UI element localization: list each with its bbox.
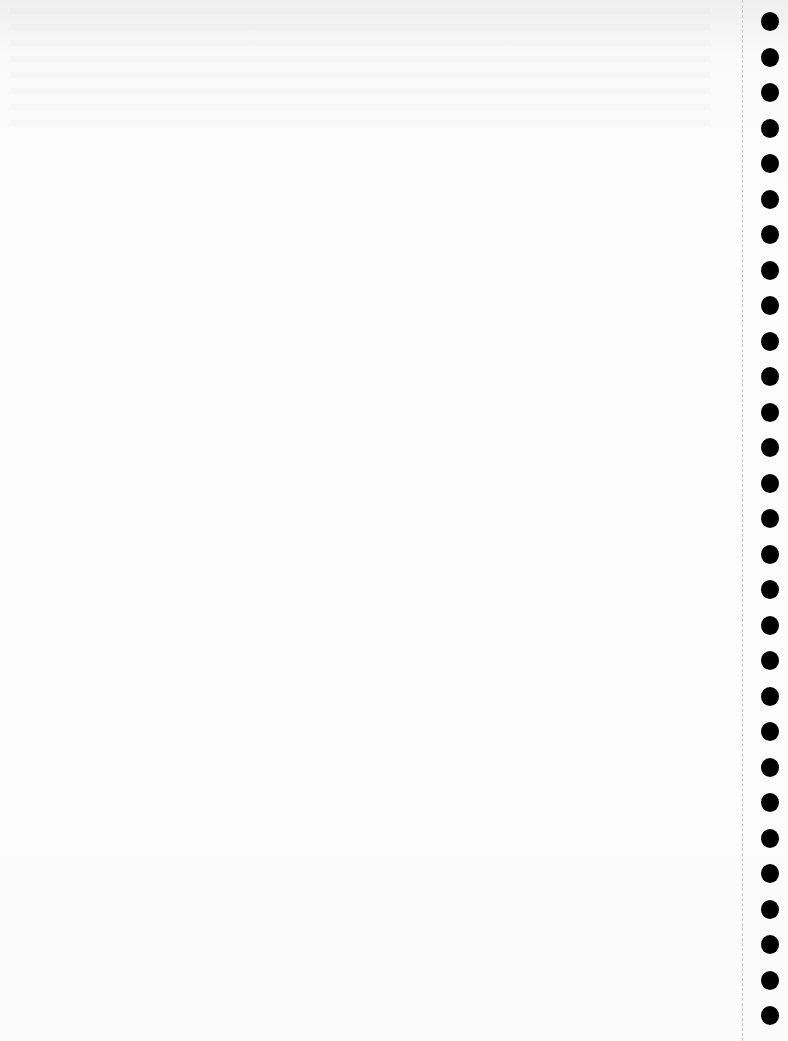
binding-hole <box>761 935 779 954</box>
binding-hole <box>761 509 779 528</box>
perforation-line <box>742 0 743 1041</box>
binding-hole <box>761 651 779 670</box>
binding-hole <box>761 119 779 138</box>
binding-hole <box>761 687 779 706</box>
bleed-through-text <box>10 8 710 128</box>
binding-hole <box>761 12 779 31</box>
binding-hole <box>761 332 779 351</box>
binding-hole <box>761 403 779 422</box>
binding-hole <box>761 190 779 209</box>
binding-hole <box>761 616 779 635</box>
binding-hole <box>761 154 779 173</box>
binding-hole <box>761 545 779 564</box>
binding-hole <box>761 225 779 244</box>
binding-hole <box>761 758 779 777</box>
binding-hole <box>761 971 779 990</box>
binding-hole <box>761 1006 779 1025</box>
binding-hole <box>761 474 779 493</box>
binding-hole <box>761 367 779 386</box>
binding-holes <box>761 0 781 1041</box>
binding-hole <box>761 438 779 457</box>
binding-hole <box>761 722 779 741</box>
binding-hole <box>761 900 779 919</box>
binding-hole <box>761 580 779 599</box>
binding-hole <box>761 48 779 67</box>
binding-hole <box>761 829 779 848</box>
binding-hole <box>761 793 779 812</box>
binding-hole <box>761 261 779 280</box>
binding-hole <box>761 296 779 315</box>
binding-hole <box>761 83 779 102</box>
binding-hole <box>761 864 779 883</box>
notebook-page <box>0 0 788 1041</box>
